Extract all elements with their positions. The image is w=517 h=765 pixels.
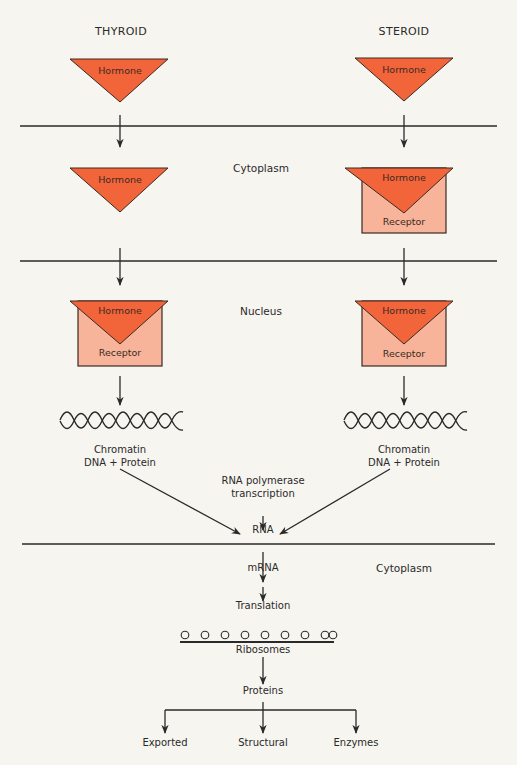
region-label-cytoplasm: Cytoplasm (233, 162, 289, 174)
steroid-column-header: STEROID (379, 25, 430, 38)
chromatin-label: Chromatin DNA + Protein (84, 443, 156, 469)
receptor-label: Receptor (99, 347, 142, 358)
region-label-cytoplasm-lower: Cytoplasm (376, 562, 432, 574)
proteins-label: Proteins (243, 685, 283, 696)
chromatin-line1: Chromatin (368, 443, 440, 456)
rna-polymerase-label: RNA polymerase transcription (221, 474, 304, 500)
hormone-label: Hormone (98, 65, 142, 76)
dna-helix-icon (60, 412, 183, 430)
chromatin-label: Chromatin DNA + Protein (368, 443, 440, 469)
region-label-nucleus: Nucleus (240, 305, 282, 317)
hormone-label: Hormone (382, 305, 426, 316)
hormone-label: Hormone (382, 172, 426, 183)
chromatin-line1: Chromatin (84, 443, 156, 456)
hormone-label: Hormone (98, 305, 142, 316)
translation-label: Translation (236, 600, 291, 611)
output-structural: Structural (238, 737, 288, 748)
hormone-label: Hormone (382, 64, 426, 75)
hormone-label: Hormone (98, 174, 142, 185)
mrna-label: mRNA (247, 562, 278, 573)
dna-helix-icon (344, 412, 467, 430)
chromatin-line2: DNA + Protein (84, 456, 156, 469)
chromatin-line2: DNA + Protein (368, 456, 440, 469)
polymerase-line2: transcription (221, 487, 304, 500)
polymerase-line1: RNA polymerase (221, 474, 304, 487)
ribosome-circles-icon (181, 631, 337, 639)
receptor-label: Receptor (383, 348, 426, 359)
thyroid-column-header: THYROID (95, 25, 147, 38)
ribosomes-label: Ribosomes (236, 644, 291, 655)
output-exported: Exported (142, 737, 187, 748)
rna-label: RNA (252, 524, 273, 535)
receptor-label: Receptor (383, 216, 426, 227)
output-enzymes: Enzymes (334, 737, 379, 748)
